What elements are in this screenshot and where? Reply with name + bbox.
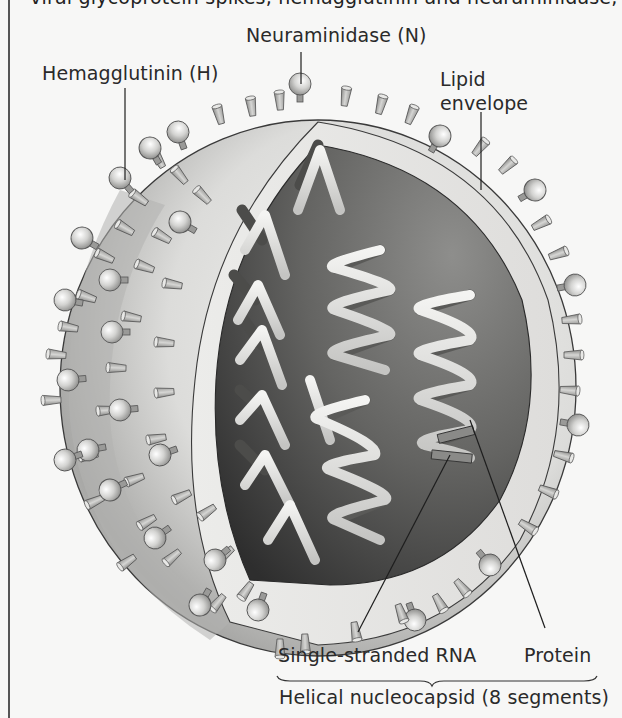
- label-helical-nucleocapsid: Helical nucleocapsid (8 segments): [279, 686, 609, 708]
- label-lipid-envelope-line2: envelope: [440, 92, 528, 114]
- label-single-stranded-rna: Single-stranded RNA: [278, 644, 476, 666]
- nucleocapsid-brace: [277, 676, 597, 686]
- label-lipid-envelope-line1: Lipid: [440, 68, 486, 90]
- influenza-virus-illustration: [0, 0, 622, 718]
- label-neuraminidase: Neuraminidase (N): [246, 24, 427, 46]
- label-hemagglutinin: Hemagglutinin (H): [42, 62, 219, 84]
- label-protein: Protein: [524, 644, 591, 666]
